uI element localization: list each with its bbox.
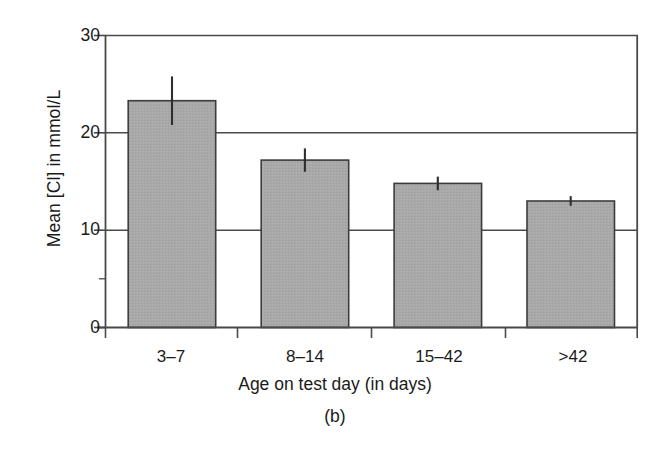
x-tick-label-gt-42: >42 bbox=[528, 348, 618, 365]
y-tick-label-20: 20 bbox=[54, 124, 100, 142]
y-tick-label-30: 30 bbox=[54, 27, 100, 45]
panel-caption: (b) bbox=[0, 406, 670, 427]
bar-15-42 bbox=[394, 183, 482, 327]
error-bars-group bbox=[172, 76, 571, 205]
bars-group bbox=[128, 101, 614, 328]
figure-panel-b: Mean [Cl] in mmol/L 30 20 10 0 3–7 8–14 … bbox=[0, 0, 670, 449]
bar-3-7 bbox=[128, 101, 216, 328]
x-tick-label-8-14: 8–14 bbox=[260, 348, 350, 365]
y-tick-label-10: 10 bbox=[54, 221, 100, 239]
bar-gt-42 bbox=[527, 201, 615, 328]
x-tick-label-15-42: 15–42 bbox=[394, 348, 484, 365]
y-tick-label-0: 0 bbox=[54, 319, 100, 337]
x-axis-title: Age on test day (in days) bbox=[0, 374, 670, 395]
x-axis bbox=[97, 328, 638, 339]
bar-8-14 bbox=[261, 160, 349, 327]
x-tick-label-3-7: 3–7 bbox=[126, 348, 216, 365]
